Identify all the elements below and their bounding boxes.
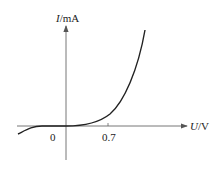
iv-curve [18, 30, 145, 134]
diode-iv-diagram: I/mA U/V 0 0.7 [0, 0, 221, 173]
y-axis-label: I/mA [55, 12, 79, 24]
tick-label-0-7: 0.7 [102, 131, 116, 143]
origin-label: 0 [50, 131, 56, 143]
x-axis-label: U/V [190, 120, 209, 132]
